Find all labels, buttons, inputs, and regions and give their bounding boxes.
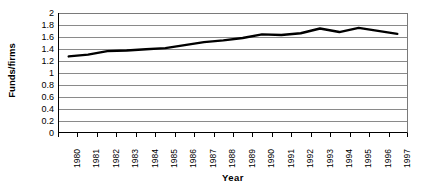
x-tick-label: 1989	[247, 134, 257, 168]
y-tick-label: 1	[22, 69, 54, 78]
x-tick-label: 1981	[91, 134, 101, 168]
chart-container: Funds/firms 00.20.40.60.811.21.41.61.82 …	[0, 0, 433, 190]
x-tick-label: 1997	[402, 134, 412, 168]
y-tick-label: 0.6	[22, 93, 54, 102]
y-tick-label: 0	[22, 129, 54, 138]
x-tick-label: 1987	[208, 134, 218, 168]
x-tick-label: 1980	[72, 134, 82, 168]
y-axis-title: Funds/firms	[0, 0, 22, 140]
plot-area	[58, 13, 408, 133]
x-tick-label: 1988	[227, 134, 237, 168]
x-axis-title: Year	[58, 172, 408, 183]
x-tick	[58, 133, 59, 137]
x-tick-label: 1985	[169, 134, 179, 168]
x-tick-label: 1991	[286, 134, 296, 168]
x-tick-label: 1990	[266, 134, 276, 168]
y-tick-label: 1.4	[22, 45, 54, 54]
x-tick-label: 1983	[130, 134, 140, 168]
x-tick-label: 1995	[363, 134, 373, 168]
x-tick-label: 1992	[305, 134, 315, 168]
x-tick-label: 1994	[344, 134, 354, 168]
y-tick-label: 2	[22, 9, 54, 18]
data-series-line	[59, 13, 407, 132]
y-tick-label: 0.4	[22, 105, 54, 114]
x-tick-label: 1996	[383, 134, 393, 168]
series-polyline	[69, 28, 398, 57]
y-tick-label: 1.2	[22, 57, 54, 66]
x-tick-label: 1993	[325, 134, 335, 168]
x-tick-label: 1982	[111, 134, 121, 168]
y-axis-tick-labels: 00.20.40.60.811.21.41.61.82	[22, 13, 58, 133]
y-axis-title-label: Funds/firms	[6, 43, 17, 97]
x-axis-tick-labels: 1980198119821983198419851986198719881989…	[58, 138, 408, 172]
y-tick-label: 0.8	[22, 81, 54, 90]
y-tick-label: 0.2	[22, 117, 54, 126]
x-tick-label: 1984	[150, 134, 160, 168]
x-tick-label: 1986	[188, 134, 198, 168]
y-tick-label: 1.8	[22, 21, 54, 30]
y-tick-label: 1.6	[22, 33, 54, 42]
